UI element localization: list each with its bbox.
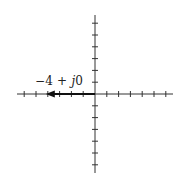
phasor-label: −4 + j0 (35, 74, 83, 88)
phasor-label-prefix: −4 + (35, 74, 71, 88)
phasor-label-suffix: 0 (75, 74, 83, 88)
complex-plane (0, 0, 186, 182)
arrowhead-icon (46, 91, 55, 98)
phasor-arrow (46, 91, 95, 98)
